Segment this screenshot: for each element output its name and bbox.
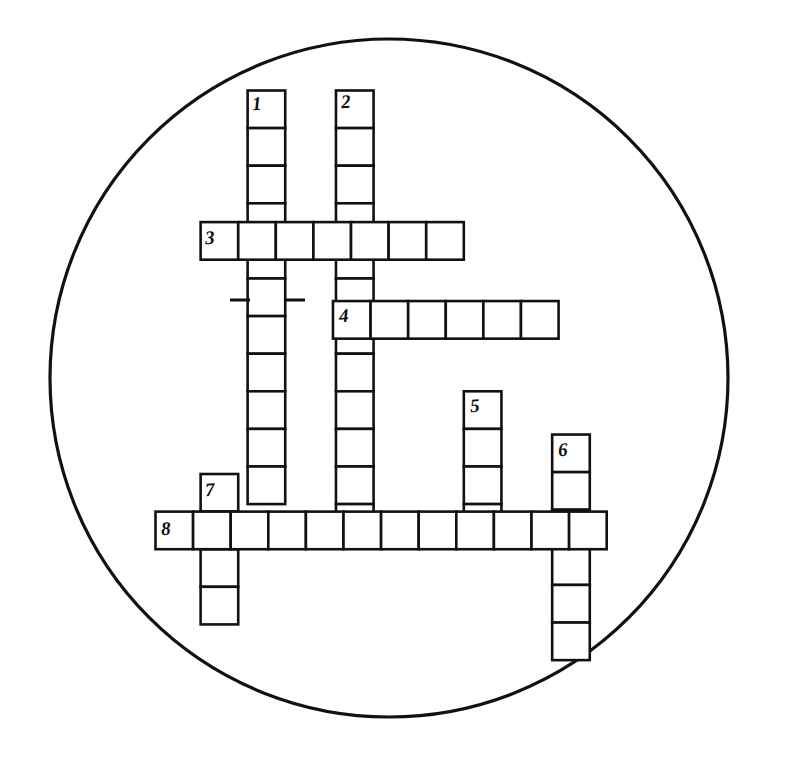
crossword-cell[interactable] [248, 467, 286, 505]
crossword-cell[interactable] [248, 391, 286, 429]
clue-number-5: 5 [469, 396, 480, 416]
crossword-cell[interactable] [336, 354, 374, 392]
crossword-cell[interactable] [248, 166, 286, 204]
crossword-cell[interactable] [351, 222, 389, 260]
crossword-cells-layer [156, 91, 607, 661]
crossword-cell[interactable] [248, 429, 286, 467]
crossword-cell[interactable] [231, 512, 269, 550]
crossword-cell[interactable] [336, 429, 374, 467]
crossword-cell[interactable] [456, 512, 494, 550]
crossword-cell[interactable] [569, 512, 607, 550]
clue-number-3: 3 [204, 228, 215, 248]
crossword-cell[interactable] [389, 222, 427, 260]
crossword-cell[interactable] [521, 301, 559, 339]
crossword-cell[interactable] [494, 512, 532, 550]
crossword-cell[interactable] [248, 279, 286, 317]
crossword-cell[interactable] [313, 222, 351, 260]
puzzle-boundary-circle [50, 39, 728, 717]
crossword-cell[interactable] [336, 467, 374, 505]
crossword-cell[interactable] [552, 623, 590, 661]
crossword-cell[interactable] [426, 222, 464, 260]
crossword-cell[interactable] [408, 301, 446, 339]
crossword-cell[interactable] [268, 512, 306, 550]
crossword-cell[interactable] [344, 512, 382, 550]
crossword-cell[interactable] [532, 512, 570, 550]
crossword-cell[interactable] [248, 128, 286, 166]
crossword-cell[interactable] [336, 391, 374, 429]
crossword-cell[interactable] [552, 472, 590, 510]
crossword-cell[interactable] [306, 512, 344, 550]
clue-number-1: 1 [251, 94, 262, 114]
crossword-cell[interactable] [552, 585, 590, 623]
crossword-puzzle-page: 12345678 [0, 0, 785, 770]
crossword-cell[interactable] [248, 316, 286, 354]
crossword-cell[interactable] [336, 166, 374, 204]
crossword-cell[interactable] [336, 128, 374, 166]
clue-number-6: 6 [557, 440, 568, 460]
crossword-cell[interactable] [419, 512, 457, 550]
crossword-cell[interactable] [193, 512, 231, 550]
crossword-canvas [0, 0, 785, 770]
clue-number-2: 2 [340, 92, 351, 112]
crossword-cell[interactable] [371, 301, 409, 339]
clue-number-4: 4 [338, 306, 349, 326]
crossword-cell[interactable] [248, 354, 286, 392]
crossword-cell[interactable] [483, 301, 521, 339]
crossword-cell[interactable] [381, 512, 419, 550]
crossword-cell[interactable] [238, 222, 276, 260]
clue-number-7: 7 [204, 480, 215, 500]
clue-number-8: 8 [160, 519, 171, 539]
crossword-cell[interactable] [276, 222, 314, 260]
crossword-cell[interactable] [201, 549, 239, 587]
crossword-cell[interactable] [464, 429, 502, 467]
crossword-cell[interactable] [201, 587, 239, 625]
crossword-cell[interactable] [446, 301, 484, 339]
crossword-cell[interactable] [552, 547, 590, 585]
crossword-cell[interactable] [464, 467, 502, 505]
